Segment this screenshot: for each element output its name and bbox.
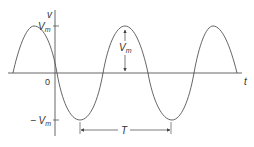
sine-wave-diagram: v t 0 Vm − Vm Vm T (0, 0, 254, 147)
x-axis-label: t (244, 76, 248, 87)
period-label: T (121, 125, 128, 136)
y-tick-vm-label: Vm (38, 21, 51, 33)
y-tick-neg-vm-label: − Vm (30, 115, 51, 127)
y-axis-label: v (47, 9, 53, 20)
origin-label: 0 (45, 77, 50, 87)
